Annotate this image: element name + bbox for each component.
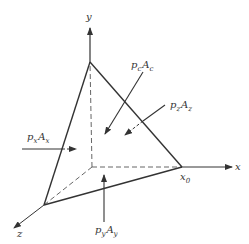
z-axis-label: z [16,228,23,239]
label-px-Ax: pxAx [27,131,50,145]
tetrahedron-diagram: y x z x0 pcAc pzAz pxAx pyAy [0,0,249,244]
x0-label: x0 [180,171,191,185]
label-pc-Ac: pcAc [131,59,154,73]
edge-apex-x0 [90,62,182,167]
label-py-Ay: pyAy [95,224,119,238]
edge-apex-zcorner [44,62,90,205]
visible-edges [44,62,182,205]
edge-origin-zcorner [44,167,92,205]
x-axis-label: x [235,161,241,172]
edge-zcorner-x0 [44,167,182,205]
edge-origin-apex [90,62,92,167]
y-axis-label: y [85,11,92,22]
label-pz-Az: pzAz [170,99,192,113]
force-arrow-pc [105,72,143,134]
hidden-edges [44,62,182,205]
z-axis [14,205,44,228]
